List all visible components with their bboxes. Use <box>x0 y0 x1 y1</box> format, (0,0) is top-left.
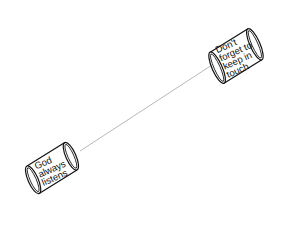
string-line <box>80 65 212 151</box>
tin-can-phone-illustration: Don't forget to keep in touch God always… <box>0 0 284 226</box>
can-bottom-left: God always listens <box>20 141 84 196</box>
can-top-right: Don't forget to keep in touch <box>203 27 269 86</box>
